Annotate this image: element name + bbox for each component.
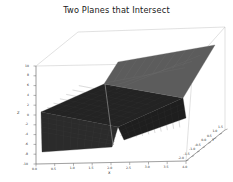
y-axis-label: Y xyxy=(212,139,214,143)
x-tick-label: 0.5 xyxy=(51,168,56,171)
x-tick-label: 1.0 xyxy=(70,167,75,170)
z-tick-label: 2 xyxy=(27,104,29,107)
y-tick-label: -2.0 xyxy=(178,157,184,160)
x-tick-label: 0.0 xyxy=(32,168,37,171)
figure-canvas: Two Planes that Intersect xyxy=(0,0,233,182)
y-tick-label: -0.5 xyxy=(195,144,201,147)
z-tick-label: 4 xyxy=(27,94,29,97)
y-tick-label: 0.0 xyxy=(201,139,206,142)
z-tick-label: 6 xyxy=(27,84,29,87)
y-tick-label: -1.0 xyxy=(189,148,195,151)
x-tick-label: 3.5 xyxy=(164,166,169,169)
z-tick-label: -10 xyxy=(23,163,28,166)
z-tick-label: -6 xyxy=(25,143,28,146)
plot-area xyxy=(0,0,233,182)
x-tick-label: 3.0 xyxy=(145,166,150,169)
z-tick-label: 0 xyxy=(27,114,29,117)
x-tick-label: 2.0 xyxy=(107,167,112,170)
y-tick-label: 1.0 xyxy=(212,130,217,133)
z-axis-label: Z xyxy=(17,112,19,116)
z-tick-label: 8 xyxy=(27,74,29,77)
z-axis xyxy=(34,66,37,164)
x-tick-label: 4.0 xyxy=(182,166,187,169)
y-tick-label: -1.5 xyxy=(184,153,190,156)
z-tick-label: 10 xyxy=(25,65,29,68)
y-tick-label: 1.5 xyxy=(218,126,223,129)
x-tick-label: 1.5 xyxy=(89,167,94,170)
z-tick-label: -2 xyxy=(25,123,28,126)
z-tick-label: -8 xyxy=(25,153,28,156)
z-tick-label: -4 xyxy=(25,133,28,136)
x-tick-label: 2.5 xyxy=(126,167,131,170)
x-axis-label: X xyxy=(108,172,110,176)
